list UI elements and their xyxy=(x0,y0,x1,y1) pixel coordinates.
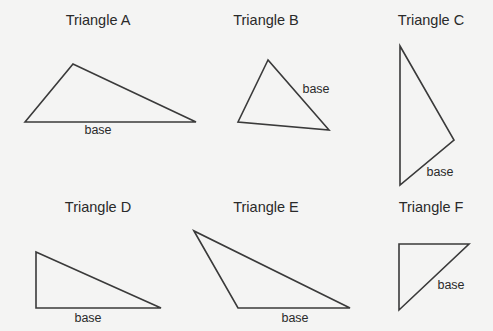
triangle-f-title: Triangle F xyxy=(399,199,464,215)
triangle-e-base-label: base xyxy=(281,311,308,325)
triangle-e xyxy=(194,231,350,308)
triangle-b-title: Triangle B xyxy=(233,12,299,28)
triangles-canvas xyxy=(0,0,493,331)
triangle-d-title: Triangle D xyxy=(65,199,131,215)
triangle-a-title: Triangle A xyxy=(66,12,131,28)
triangle-d xyxy=(36,252,161,308)
triangle-d-base-label: base xyxy=(74,311,101,325)
triangle-f-base-label: base xyxy=(437,278,464,292)
triangle-c-base-label: base xyxy=(426,165,453,179)
triangle-c-title: Triangle C xyxy=(398,12,464,28)
triangle-a xyxy=(25,64,196,122)
triangle-b-base-label: base xyxy=(302,82,329,96)
triangle-f xyxy=(399,244,469,310)
triangle-e-title: Triangle E xyxy=(233,199,299,215)
triangle-a-base-label: base xyxy=(84,123,111,137)
